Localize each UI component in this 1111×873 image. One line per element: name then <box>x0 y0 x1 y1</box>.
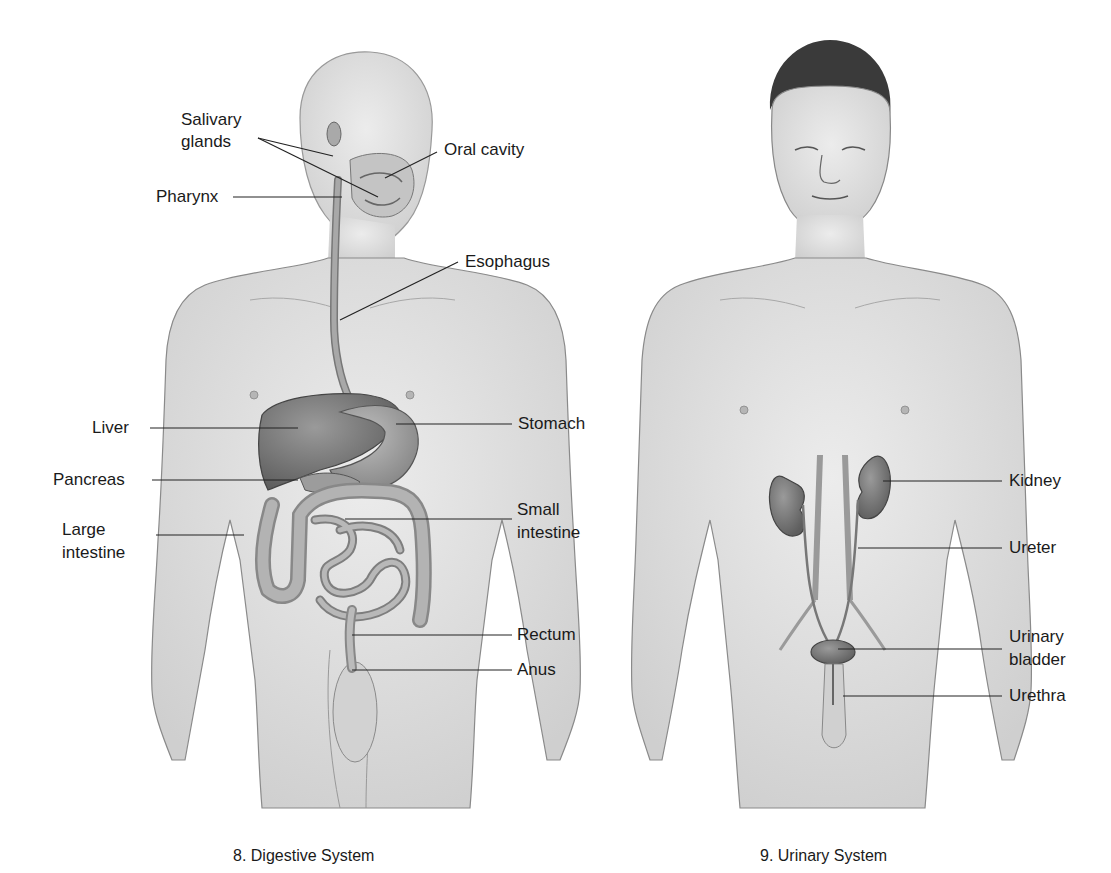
label-urinary-bladder-line1: Urinary <box>1009 627 1064 647</box>
label-small-intestine-line1: Small <box>517 500 560 520</box>
anatomy-illustration <box>0 0 1111 873</box>
label-stomach: Stomach <box>518 414 585 434</box>
label-esophagus: Esophagus <box>465 252 550 272</box>
digestive-body <box>152 52 581 808</box>
label-ureter: Ureter <box>1009 538 1056 558</box>
label-pancreas: Pancreas <box>53 470 125 490</box>
label-pharynx: Pharynx <box>156 187 218 207</box>
label-large-intestine-line2: intestine <box>62 543 125 563</box>
label-anus: Anus <box>517 660 556 680</box>
label-large-intestine-line1: Large <box>62 520 105 540</box>
label-liver: Liver <box>92 418 129 438</box>
label-oral-cavity: Oral cavity <box>444 140 524 160</box>
caption-digestive-system: 8. Digestive System <box>233 847 374 865</box>
urinary-body <box>631 40 1031 808</box>
label-urethra: Urethra <box>1009 686 1066 706</box>
caption-urinary-system: 9. Urinary System <box>760 847 887 865</box>
label-salivary-glands-line2: glands <box>181 132 231 152</box>
label-kidney: Kidney <box>1009 471 1061 491</box>
label-rectum: Rectum <box>517 625 576 645</box>
label-small-intestine-line2: intestine <box>517 523 580 543</box>
label-urinary-bladder-line2: bladder <box>1009 650 1066 670</box>
label-salivary-glands-line1: Salivary <box>181 110 241 130</box>
